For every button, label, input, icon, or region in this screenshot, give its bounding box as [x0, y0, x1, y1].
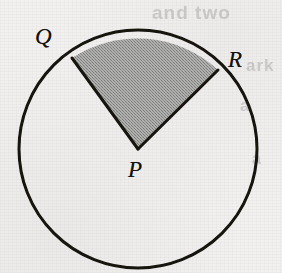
geometry-figure-canvas: and two ark a a Q R: [0, 0, 282, 273]
shaded-sector-region: [72, 38, 218, 149]
vertex-label-p: P: [128, 158, 142, 181]
vertex-label-q: Q: [35, 25, 52, 48]
vertex-label-r: R: [228, 48, 242, 71]
